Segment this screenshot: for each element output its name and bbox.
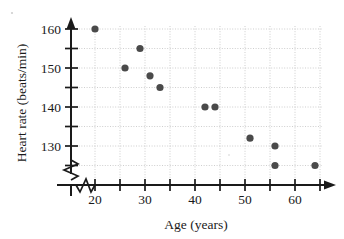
data-point [156, 84, 163, 91]
data-point [91, 25, 98, 32]
x-tick-label-60: 60 [288, 192, 302, 207]
x-tick-label-30: 30 [138, 192, 152, 207]
data-point [246, 135, 253, 142]
x-axis-title: Age (years) [164, 217, 227, 232]
data-point [146, 72, 153, 79]
x-tick-label-40: 40 [188, 192, 202, 207]
y-tick-label-150: 150 [41, 61, 62, 76]
data-point [201, 103, 208, 110]
data-point [136, 45, 143, 52]
data-point [311, 162, 318, 169]
scatter-plot-figure: 2030405060 130140150160 Age (years) Hear… [0, 0, 344, 239]
y-axis-title: Heart rate (beats/min) [14, 44, 29, 162]
data-point [211, 103, 218, 110]
x-tick-label-50: 50 [238, 192, 252, 207]
data-point [121, 64, 128, 71]
data-point [271, 162, 278, 169]
y-tick-label-160: 160 [41, 22, 62, 37]
y-tick-label-140: 140 [41, 100, 62, 115]
y-tick-label-130: 130 [41, 139, 62, 154]
data-point [271, 142, 278, 149]
x-tick-label-20: 20 [88, 192, 102, 207]
